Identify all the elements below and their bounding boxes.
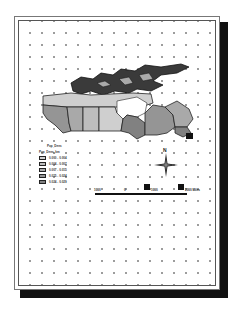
legend-swatch [39,180,46,184]
scale-marker [144,184,150,190]
canada-map[interactable] [41,61,206,141]
region-british-columbia[interactable] [43,105,71,133]
region-ontario[interactable] [121,115,145,139]
legend-swatch [39,168,46,172]
north-arrow[interactable]: N [154,147,178,177]
scale-label: 0 [124,188,126,192]
layout-page[interactable]: Pop_Dens Pop_Dens_km 0.000 - 0.004 0.004… [14,16,220,290]
scale-label: 1000 [151,188,158,192]
scale-label: 1000 [94,188,101,192]
compass-star-icon [154,153,178,177]
scale-label: 2000 Miles [185,188,200,192]
scale-bar[interactable]: 1000 0 1000 2000 Miles [94,181,214,197]
legend-label: 0.024 - 0.029 [49,179,67,185]
legend-swatch [39,156,46,160]
newfoundland-block [186,133,193,139]
legend[interactable]: Pop_Dens Pop_Dens_km 0.000 - 0.004 0.004… [39,143,67,185]
region-saskatchewan[interactable] [83,107,99,131]
page-frame: Pop_Dens Pop_Dens_km 0.000 - 0.004 0.004… [18,20,216,286]
legend-swatch [39,174,46,178]
legend-row: 0.024 - 0.029 [39,179,67,185]
scale-marker [178,184,184,190]
scale-line [95,193,187,195]
legend-swatch [39,162,46,166]
